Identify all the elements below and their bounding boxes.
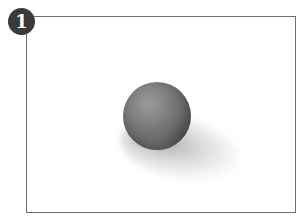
step-number-badge: 1 — [8, 8, 35, 35]
sphere-reflected-light — [128, 128, 184, 150]
